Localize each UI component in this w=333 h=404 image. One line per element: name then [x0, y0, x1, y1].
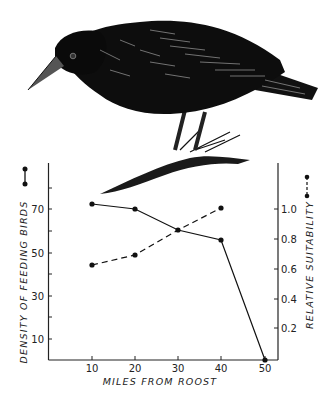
y-axis-title: DENSITY OF FEEDING BIRDS — [18, 201, 29, 364]
legend-solid-marker — [23, 167, 28, 187]
data-point — [218, 237, 223, 242]
y-tick-label: 10 — [31, 334, 44, 345]
data-point — [218, 205, 223, 210]
starling-illustration — [28, 21, 318, 194]
data-point — [89, 262, 94, 267]
y2-tick-label: 0.8 — [281, 234, 297, 245]
y2-tick-label: 0.6 — [281, 264, 297, 275]
x-tick-label: 10 — [86, 363, 99, 374]
x-tick-label: 20 — [129, 363, 142, 374]
figure: 10 30 50 70 10 20 30 40 50 0.2 0.4 0.6 0… — [0, 0, 333, 404]
y2-tick-label: 0.4 — [281, 294, 297, 305]
data-point — [89, 201, 94, 206]
legend-dashed-marker — [305, 175, 310, 199]
y2-tick-label: 1.0 — [281, 204, 297, 215]
y-tick-label: 30 — [31, 291, 44, 302]
data-point — [132, 206, 137, 211]
y-tick-label: 70 — [31, 204, 44, 215]
series-density — [89, 201, 267, 362]
y2-tick-label: 0.2 — [281, 323, 297, 334]
y-tick-label: 50 — [31, 248, 44, 259]
x-axis-title: MILES FROM ROOST — [103, 376, 218, 387]
data-point — [262, 357, 267, 362]
axes: 10 30 50 70 10 20 30 40 50 0.2 0.4 0.6 0… — [18, 163, 315, 387]
x-tick-label: 40 — [215, 363, 228, 374]
x-tick-label: 50 — [259, 363, 272, 374]
x-tick-label: 30 — [172, 363, 185, 374]
y2-axis-title: RELATIVE SUITABILITY — [304, 201, 315, 329]
data-point — [132, 252, 137, 257]
